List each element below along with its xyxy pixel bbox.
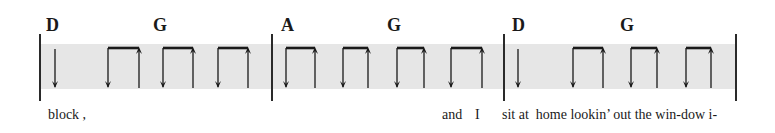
- lyric-syllable: block ,: [48, 107, 86, 123]
- lyric-syllable: and: [442, 107, 462, 123]
- lyric-syllable: sit at home lookin’ out the win-dow i-: [502, 107, 717, 123]
- lyric-syllable: I: [475, 107, 480, 123]
- strum-notation-staff: D G A G D G block , and I sit at home lo…: [0, 0, 775, 133]
